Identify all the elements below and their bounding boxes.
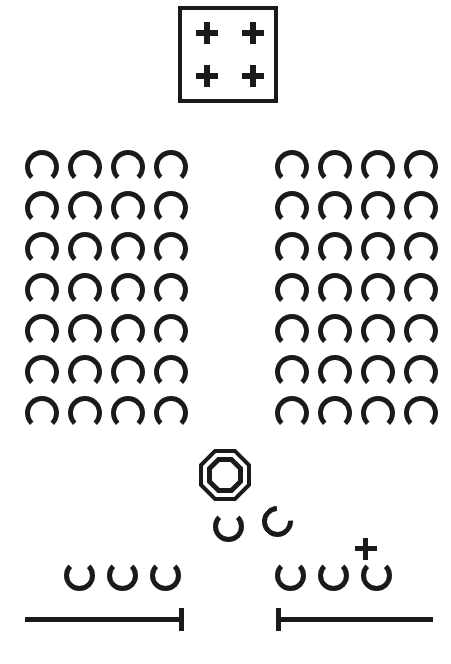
cup-glyph xyxy=(213,511,247,545)
glyph-cell xyxy=(154,314,188,348)
arch-icon xyxy=(275,314,309,348)
arch-icon xyxy=(318,273,352,307)
arch-icon xyxy=(361,314,395,348)
arch-icon xyxy=(68,273,102,307)
cup-icon xyxy=(318,560,349,591)
arch-icon xyxy=(154,232,188,266)
glyph-cell xyxy=(361,232,395,266)
glyph-cell xyxy=(25,355,59,389)
glyph-cell xyxy=(361,355,395,389)
arch-icon xyxy=(154,314,188,348)
glyph-cell xyxy=(361,150,395,184)
glyph-cell xyxy=(68,232,102,266)
arch-icon xyxy=(68,150,102,184)
arch-icon xyxy=(154,355,188,389)
glyph-cell xyxy=(275,273,309,307)
glyph-cell xyxy=(361,396,395,430)
glyph-cell xyxy=(275,560,309,594)
arch-icon xyxy=(68,396,102,430)
glyph-cell xyxy=(68,355,102,389)
glyph-cell xyxy=(404,273,438,307)
arch-icon xyxy=(404,273,438,307)
arch-icon xyxy=(111,314,145,348)
arch-icon xyxy=(404,150,438,184)
arch-icon xyxy=(318,150,352,184)
glyph-cell xyxy=(25,150,59,184)
glyph-cell xyxy=(68,273,102,307)
cup-icon xyxy=(64,560,95,591)
glyph-cell xyxy=(318,560,352,594)
plus-icon-top-left xyxy=(196,22,218,44)
arch-icon xyxy=(154,396,188,430)
glyph-cell xyxy=(154,150,188,184)
glyph-cell xyxy=(111,191,145,225)
symbol-sheet-canvas xyxy=(0,0,451,664)
arch-icon xyxy=(361,232,395,266)
glyph-cell xyxy=(111,396,145,430)
glyph-cell xyxy=(111,355,145,389)
arch-icon xyxy=(25,191,59,225)
cup-icon xyxy=(361,560,392,591)
glyph-cell xyxy=(154,396,188,430)
cup-icon xyxy=(107,560,138,591)
glyph-cell xyxy=(361,314,395,348)
glyph-cell xyxy=(318,232,352,266)
arch-icon xyxy=(318,314,352,348)
plus-icon-bottom-right xyxy=(242,65,264,87)
glyph-cell xyxy=(404,232,438,266)
bottom-left-rule-tick xyxy=(179,608,184,631)
arch-icon xyxy=(111,273,145,307)
glyph-cell xyxy=(404,314,438,348)
bordered-square-with-plus-marks xyxy=(178,6,278,103)
glyph-cell xyxy=(154,355,188,389)
glyph-cell xyxy=(150,560,184,594)
glyph-cell xyxy=(318,150,352,184)
arch-icon xyxy=(318,396,352,430)
glyph-cell xyxy=(361,273,395,307)
glyph-cell xyxy=(25,396,59,430)
arch-icon xyxy=(318,191,352,225)
glyph-cell xyxy=(361,191,395,225)
arch-icon xyxy=(68,232,102,266)
arch-icon xyxy=(361,273,395,307)
arch-icon xyxy=(404,191,438,225)
arch-icon xyxy=(68,191,102,225)
glyph-cell xyxy=(111,232,145,266)
glyph-cell xyxy=(68,314,102,348)
cup-icon xyxy=(150,560,181,591)
arch-icon xyxy=(111,355,145,389)
glyph-cell xyxy=(275,191,309,225)
arch-icon xyxy=(361,396,395,430)
arch-icon xyxy=(154,191,188,225)
arch-icon xyxy=(404,396,438,430)
arch-icon xyxy=(111,396,145,430)
arch-icon xyxy=(275,355,309,389)
arch-icon xyxy=(275,232,309,266)
glyph-cell xyxy=(68,150,102,184)
glyph-cell xyxy=(404,396,438,430)
arch-icon xyxy=(275,273,309,307)
arch-icon xyxy=(111,232,145,266)
arch-icon xyxy=(25,355,59,389)
glyph-cell xyxy=(111,150,145,184)
arch-icon xyxy=(154,273,188,307)
arch-icon xyxy=(275,191,309,225)
arch-icon xyxy=(25,314,59,348)
arch-icon xyxy=(275,150,309,184)
glyph-cell xyxy=(318,191,352,225)
glyph-cell xyxy=(318,355,352,389)
arch-icon xyxy=(68,314,102,348)
cup-icon xyxy=(213,511,244,542)
glyph-cell xyxy=(404,355,438,389)
arch-icon xyxy=(25,232,59,266)
glyph-cell xyxy=(154,191,188,225)
glyph-cell xyxy=(318,396,352,430)
glyph-cell xyxy=(111,314,145,348)
open-ring-glyph xyxy=(262,506,296,540)
arch-icon xyxy=(25,396,59,430)
bottom-right-rule-line xyxy=(276,617,433,622)
glyph-cell xyxy=(68,396,102,430)
arch-icon xyxy=(404,355,438,389)
arch-icon xyxy=(154,150,188,184)
arch-icon xyxy=(318,355,352,389)
